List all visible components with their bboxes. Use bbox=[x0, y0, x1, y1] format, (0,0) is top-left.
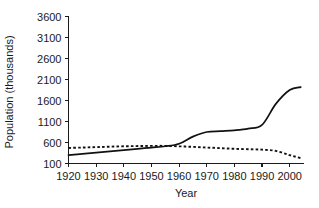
y-tick-label: 2100 bbox=[37, 74, 61, 86]
y-tick-label: 600 bbox=[43, 137, 61, 149]
x-tick-label: 2000 bbox=[277, 170, 301, 182]
y-tick-label: 100 bbox=[43, 158, 61, 170]
y-tick-label: 1600 bbox=[37, 95, 61, 107]
chart-figure: 100600110016002100260031003600 192019301… bbox=[0, 0, 319, 208]
x-tick-label: 1940 bbox=[112, 170, 136, 182]
x-tick-label: 1960 bbox=[167, 170, 191, 182]
y-tick-label: 2600 bbox=[37, 53, 61, 65]
x-tick-label: 1980 bbox=[222, 170, 246, 182]
x-tick-label: 1920 bbox=[56, 170, 80, 182]
y-tick-label: 1100 bbox=[38, 116, 62, 128]
y-axis-title: Population (thousands) bbox=[3, 35, 15, 148]
x-axis-title: Year bbox=[175, 187, 198, 199]
x-tick-label: 1990 bbox=[250, 170, 274, 182]
y-tick-label: 3100 bbox=[37, 32, 61, 44]
population-line-chart: 100600110016002100260031003600 192019301… bbox=[0, 0, 319, 208]
y-tick-label: 3600 bbox=[37, 11, 61, 23]
x-tick-label: 1970 bbox=[194, 170, 218, 182]
x-tick-label: 1930 bbox=[84, 170, 108, 182]
x-tick-label: 1950 bbox=[139, 170, 163, 182]
x-axis-tick-labels: 192019301940195019601970198019902000 bbox=[56, 170, 302, 182]
